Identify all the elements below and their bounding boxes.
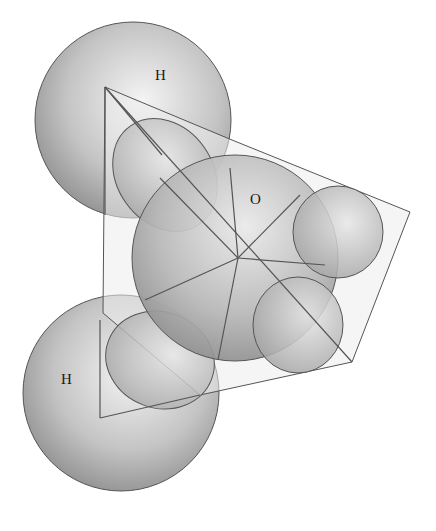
lone-pair-lobe-right: [293, 186, 383, 278]
water-molecule-diagram: H H O: [0, 0, 436, 531]
hydrogen-top-label: H: [155, 67, 166, 83]
lone-pair-lobe-lower: [253, 277, 343, 373]
hydrogen-bottom-label: H: [61, 371, 72, 387]
oxygen-label: O: [250, 191, 261, 207]
